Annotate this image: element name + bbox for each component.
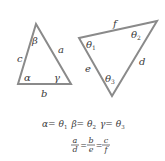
side-c-label: c — [17, 53, 23, 64]
side-ratio-equation: a d = b e = c f — [71, 136, 110, 154]
angle-equality-equation: α= θ1β= θ2γ= θ3 — [42, 119, 125, 130]
ratio-denominator-f: f — [104, 145, 110, 154]
angle-theta2-label: θ2 — [131, 29, 141, 41]
side-b-label: b — [41, 88, 47, 99]
equals-sign: = — [80, 141, 87, 150]
angle-theta1-label: θ1 — [86, 39, 96, 51]
angle-alpha-label: α — [24, 72, 31, 83]
angle-beta-label: β — [31, 35, 38, 46]
ratio-numerator-a: a — [73, 136, 78, 145]
side-d-label: d — [139, 56, 145, 67]
angle-gamma-label: γ — [54, 72, 60, 83]
similar-triangles-diagram: β a c α γ b f θ1 θ2 e d θ3 α= θ1β= θ2γ= … — [0, 0, 165, 161]
side-e-label: e — [85, 63, 91, 74]
angle-theta3-label: θ3 — [105, 73, 115, 85]
ratio-numerator-c: c — [104, 136, 109, 145]
ratio-numerator-b: b — [88, 136, 93, 145]
side-f-label: f — [112, 18, 119, 29]
ratio-denominator-e: e — [89, 145, 94, 154]
side-a-label: a — [58, 44, 64, 55]
equals-sign: = — [96, 141, 103, 150]
ratio-denominator-d: d — [72, 145, 77, 154]
